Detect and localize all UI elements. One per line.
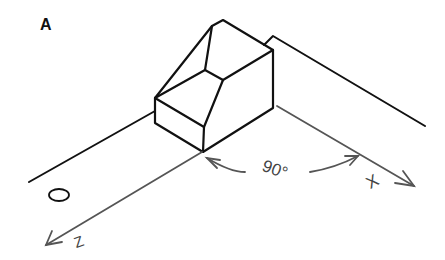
origin-marker (49, 189, 69, 201)
isometric-diagram (0, 0, 445, 260)
angle-arc-arrowhead-left (207, 158, 220, 168)
axes (46, 106, 414, 245)
block-object (155, 20, 273, 152)
x-axis (277, 106, 414, 186)
z-axis (46, 152, 202, 245)
angle-arc (207, 158, 245, 172)
plane-edges (29, 36, 425, 182)
